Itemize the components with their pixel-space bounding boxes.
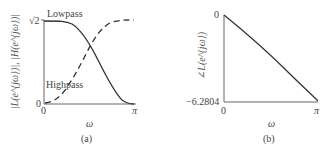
panel-a-highpass-curve (45, 20, 134, 103)
panel-a-lowpass-label: Lowpass (47, 9, 83, 19)
panel-a-ytick-top: √2 (29, 16, 40, 26)
panel-a-axes (41, 20, 136, 104)
panel-b-ytick-top: 0 (214, 10, 219, 20)
panel-b-xtick-left: 0 (221, 106, 226, 116)
panel-a-xlabel: ω (86, 119, 93, 129)
panel-a-lowpass-curve (44, 21, 134, 104)
panel-a-xtick-left: 0 (41, 106, 46, 116)
panel-b-xtick-right: π (314, 106, 319, 116)
panel-a-caption: (a) (81, 134, 92, 144)
panel-a-ylabel: |L(e^{jω})|, |H(e^{jω})| (9, 12, 20, 112)
panel-b-phase-curve (224, 15, 318, 101)
panel-b-xlabel: ω (268, 119, 275, 129)
figure-canvas (0, 0, 335, 153)
panel-b-ytick-bottom: −6.2804 (186, 97, 219, 107)
panel-b-axes (224, 15, 318, 102)
panel-b-ylabel: ∠L(e^{jω}) (196, 26, 207, 86)
panel-a-xtick-right: π (132, 106, 137, 116)
panel-b-caption: (b) (263, 134, 275, 144)
panel-a-highpass-label: Highpass (46, 80, 83, 90)
